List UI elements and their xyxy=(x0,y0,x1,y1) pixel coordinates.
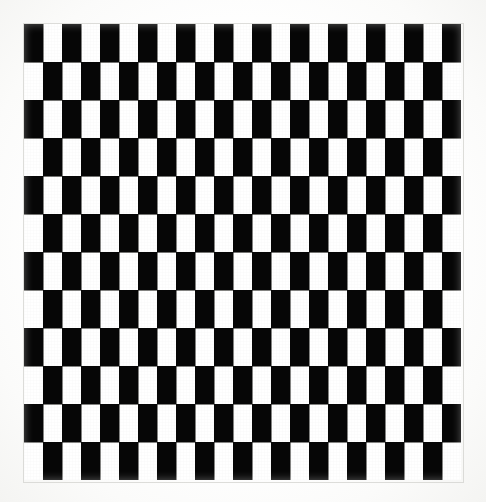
pattern-canvas xyxy=(24,24,461,480)
photo-frame: Black and white stepped-chevron op-art t… xyxy=(0,0,486,502)
op-art-tile xyxy=(24,24,461,480)
